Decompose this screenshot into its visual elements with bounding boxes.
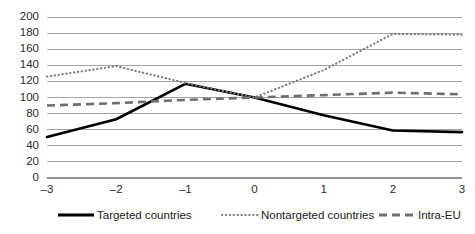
plot-area: 020406080100120140160180200 –3–2–10123 T… <box>0 0 475 234</box>
x-axis-tick-labels: –3–2–10123 <box>41 183 466 195</box>
y-axis-tick-label: 80 <box>26 107 39 119</box>
x-axis-tick-label: –1 <box>179 183 192 195</box>
legend-item-targeted-countries[interactable]: Targeted countries <box>58 209 192 221</box>
y-axis-tick-label: 60 <box>26 123 39 135</box>
x-axis-tick-label: –3 <box>41 183 54 195</box>
y-axis-tick-label: 180 <box>20 26 39 38</box>
x-axis-tick-label: 2 <box>390 183 396 195</box>
x-axis-tick-label: 3 <box>459 183 465 195</box>
chart-legend: Targeted countriesNontargeted countriesI… <box>58 209 461 221</box>
y-axis-tick-label: 200 <box>20 10 39 22</box>
legend-label-targeted-countries: Targeted countries <box>97 209 192 221</box>
legend-item-intra-eu[interactable]: Intra-EU <box>379 209 461 221</box>
legend-label-intra-eu: Intra-EU <box>418 209 461 221</box>
x-axis-tick-label: 1 <box>320 183 326 195</box>
x-axis-tick-label: 0 <box>251 183 257 195</box>
chart-canvas: 020406080100120140160180200 –3–2–10123 T… <box>0 0 475 234</box>
y-axis-tick-label: 120 <box>20 74 39 86</box>
y-axis-tick-label: 160 <box>20 42 39 54</box>
y-axis-tick-label: 20 <box>26 155 39 167</box>
y-axis-tick-label: 100 <box>20 91 39 103</box>
x-axis-tick-label: –2 <box>110 183 123 195</box>
legend-label-nontargeted-countries: Nontargeted countries <box>261 209 374 221</box>
legend-item-nontargeted-countries[interactable]: Nontargeted countries <box>222 209 374 221</box>
y-axis-tick-labels: 020406080100120140160180200 <box>20 10 39 183</box>
y-axis-tick-label: 140 <box>20 58 39 70</box>
y-axis-tick-label: 0 <box>33 171 39 183</box>
series-line-intra-eu <box>47 93 462 106</box>
y-axis-tick-label: 40 <box>26 139 39 151</box>
line-chart: 020406080100120140160180200 –3–2–10123 T… <box>0 0 475 234</box>
